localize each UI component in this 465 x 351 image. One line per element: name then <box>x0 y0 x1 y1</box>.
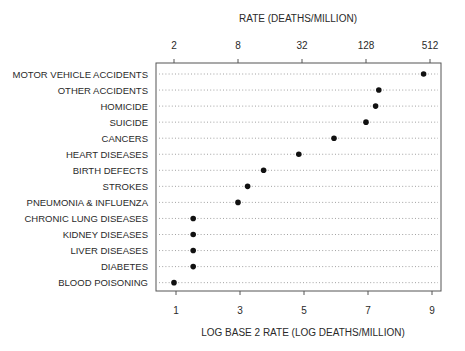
guide-lines <box>159 74 438 283</box>
category-label: HOMICIDE <box>101 101 149 112</box>
bottom-tick-label: 1 <box>173 305 179 316</box>
category-label: CANCERS <box>102 133 148 144</box>
top-tick-label: 512 <box>422 40 439 51</box>
category-label: BLOOD POISONING <box>58 277 148 288</box>
data-point <box>331 135 337 141</box>
data-point <box>171 280 177 286</box>
top-tick-label: 128 <box>358 40 375 51</box>
data-point <box>376 87 382 93</box>
top-tick-label: 8 <box>235 40 241 51</box>
plot-frame <box>156 63 441 291</box>
category-label: LIVER DISEASES <box>70 245 148 256</box>
category-label: STROKES <box>103 181 148 192</box>
dot-plot-chart: RATE (DEATHS/MILLION) LOG BASE 2 RATE (L… <box>0 0 465 351</box>
data-point <box>190 216 196 222</box>
data-point <box>245 184 251 190</box>
bottom-tick-label: 3 <box>237 305 243 316</box>
data-point <box>190 232 196 238</box>
category-label: HEART DISEASES <box>66 149 148 160</box>
data-point <box>363 119 369 125</box>
top-tick-label: 32 <box>296 40 308 51</box>
category-label: PNEUMONIA & INFLUENZA <box>27 197 149 208</box>
data-point <box>190 248 196 254</box>
category-label: MOTOR VEHICLE ACCIDENTS <box>13 69 149 80</box>
data-point <box>235 200 241 206</box>
data-point <box>261 168 267 174</box>
top-axis-title: RATE (DEATHS/MILLION) <box>239 13 357 24</box>
bottom-tick-label: 5 <box>301 305 307 316</box>
data-point <box>421 71 427 77</box>
bottom-axis-title: LOG BASE 2 RATE (LOG DEATHS/MILLION) <box>201 327 405 338</box>
data-point <box>373 103 379 109</box>
category-label: SUICIDE <box>109 117 148 128</box>
category-label: BIRTH DEFECTS <box>73 165 148 176</box>
data-point <box>190 264 196 270</box>
top-axis: 2832128512 <box>171 40 439 63</box>
category-label: KIDNEY DISEASES <box>63 229 148 240</box>
bottom-tick-label: 9 <box>429 305 435 316</box>
category-label: OTHER ACCIDENTS <box>58 85 148 96</box>
category-labels: MOTOR VEHICLE ACCIDENTSOTHER ACCIDENTSHO… <box>13 69 149 289</box>
bottom-tick-label: 7 <box>365 305 371 316</box>
bottom-axis: 13579 <box>173 291 435 316</box>
data-points <box>171 71 426 285</box>
category-label: DIABETES <box>101 261 148 272</box>
top-tick-label: 2 <box>171 40 177 51</box>
category-label: CHRONIC LUNG DISEASES <box>24 213 148 224</box>
data-point <box>296 151 302 157</box>
